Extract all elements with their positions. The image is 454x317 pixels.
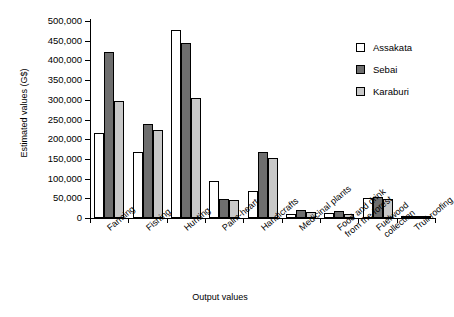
bar-group xyxy=(133,21,163,218)
bar xyxy=(171,30,181,218)
y-tick-label: 400,000 xyxy=(22,55,82,64)
x-tick xyxy=(435,218,436,223)
y-tick-label: 350,000 xyxy=(22,75,82,84)
bar xyxy=(104,52,114,218)
y-tick-label: 50,000 xyxy=(22,193,82,202)
bar xyxy=(143,124,153,218)
x-tick xyxy=(243,218,244,223)
legend-label: Assakata xyxy=(373,42,412,53)
bar-group xyxy=(209,21,239,218)
x-tick xyxy=(90,218,91,223)
bar xyxy=(258,152,268,218)
y-tick-label: 100,000 xyxy=(22,174,82,183)
x-tick xyxy=(205,218,206,223)
x-tick xyxy=(320,218,321,223)
bar-group xyxy=(248,21,278,218)
bar xyxy=(296,210,306,218)
bar xyxy=(181,43,191,218)
legend-label: Sebai xyxy=(373,64,397,75)
bar-group xyxy=(94,21,124,218)
bar xyxy=(219,199,229,218)
y-tick-label: 150,000 xyxy=(22,154,82,163)
legend-swatch-icon xyxy=(356,87,365,96)
bar xyxy=(286,214,296,218)
y-tick-label: 0 xyxy=(22,213,82,222)
legend-item: Sebai xyxy=(356,58,412,80)
legend-swatch-icon xyxy=(356,43,365,52)
y-tick-label: 300,000 xyxy=(22,95,82,104)
bar xyxy=(191,98,201,218)
legend-item: Karaburi xyxy=(356,80,412,102)
bar xyxy=(153,130,163,218)
bar-group xyxy=(171,21,201,218)
legend-label: Karaburi xyxy=(373,86,409,97)
x-axis-title: Output values xyxy=(120,292,320,302)
y-tick-label: 500,000 xyxy=(22,16,82,25)
legend-item: Assakata xyxy=(356,36,412,58)
bar xyxy=(114,101,124,218)
y-tick-label: 200,000 xyxy=(22,134,82,143)
bar-group xyxy=(286,21,316,218)
y-tick-label: 250,000 xyxy=(22,115,82,124)
chart-legend: AssakataSebaiKaraburi xyxy=(356,36,412,102)
bar xyxy=(94,133,104,218)
legend-swatch-icon xyxy=(356,65,365,74)
y-tick-label: 450,000 xyxy=(22,36,82,45)
x-tick xyxy=(128,218,129,223)
